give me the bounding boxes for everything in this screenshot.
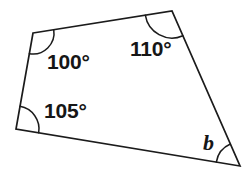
angle-label-bottom-left: 105° [44, 100, 87, 121]
angle-arc-bottom-left [20, 106, 39, 132]
angle-label-top-right: 110° [130, 38, 171, 59]
angle-label-bottom-right-unknown: b [203, 132, 214, 154]
angle-arc-top-right [145, 15, 183, 38]
geometry-diagram: 100° 110° 105° b [0, 0, 249, 172]
angle-label-top-left: 100° [47, 51, 90, 72]
angle-arc-bottom-right [216, 144, 230, 162]
